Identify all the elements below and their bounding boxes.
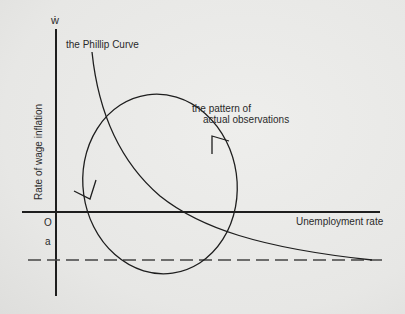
origin-label: O (44, 218, 52, 228)
y-axis-label: Rate of wage inflation (33, 104, 44, 200)
y-axis-symbol: ẇ (51, 15, 59, 26)
dashed-line-label: a (45, 237, 51, 247)
loop-label-line1: the pattern of (192, 104, 251, 114)
arrow-down-icon (74, 180, 96, 199)
loop-label-line2: actual observations (203, 115, 289, 125)
phillips-curve-diagram (0, 0, 405, 314)
arrow-up-icon (212, 136, 229, 154)
x-axis-label: Unemployment rate (296, 217, 383, 227)
curve-label: the Phillip Curve (66, 40, 139, 50)
